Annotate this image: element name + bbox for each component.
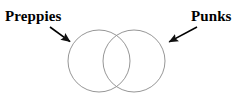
- venn-circle-right: [103, 30, 165, 92]
- venn-circle-left: [68, 30, 130, 92]
- arrow-punks-to-right-circle: [169, 27, 197, 42]
- venn-diagram-figure: Preppies Punks: [0, 0, 245, 96]
- label-preppies: Preppies: [5, 9, 61, 24]
- arrow-preppies-to-left-circle: [50, 27, 70, 42]
- label-punks: Punks: [191, 9, 232, 24]
